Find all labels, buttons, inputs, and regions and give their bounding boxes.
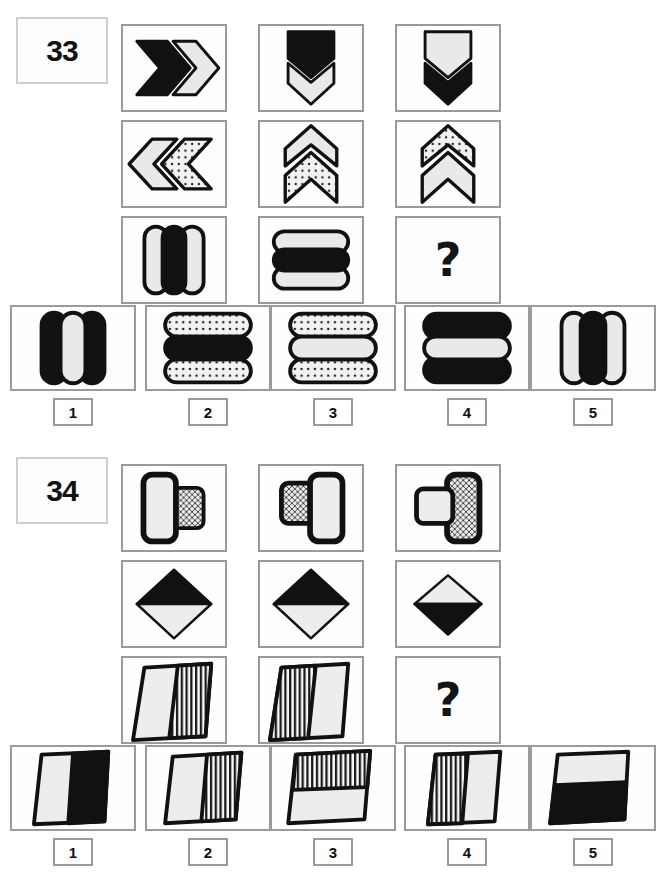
puzzle-number-plate: 34 — [16, 457, 108, 524]
answer-label-text: 1 — [69, 404, 77, 421]
matrix-cell-r3c3-missing[interactable]: ? — [395, 216, 501, 304]
matrix-cell-r3c1[interactable] — [121, 216, 227, 304]
matrix-cell-r1c1[interactable] — [121, 464, 227, 552]
answer-label-1[interactable]: 1 — [53, 398, 93, 426]
answer-label-text: 1 — [69, 844, 77, 861]
answer-option-5[interactable] — [530, 745, 656, 831]
matrix-cell-r2c2[interactable] — [258, 120, 364, 208]
answer-label-4[interactable]: 4 — [447, 398, 487, 426]
answer-option-1[interactable] — [10, 745, 136, 831]
matrix-cell-r1c3[interactable] — [395, 24, 501, 112]
question-mark: ? — [397, 218, 499, 302]
answer-option-4[interactable] — [404, 745, 530, 831]
answer-label-4[interactable]: 4 — [447, 838, 487, 866]
answer-label-text: 5 — [589, 844, 597, 861]
puzzle-number-plate: 33 — [16, 17, 108, 84]
answer-label-3[interactable]: 3 — [313, 838, 353, 866]
matrix-cell-r3c2[interactable] — [258, 656, 364, 744]
answer-label-3[interactable]: 3 — [313, 398, 353, 426]
answer-label-5[interactable]: 5 — [573, 838, 613, 866]
answer-label-text: 2 — [204, 844, 212, 861]
question-mark: ? — [397, 658, 499, 742]
answer-option-2[interactable] — [145, 305, 271, 391]
answer-label-text: 3 — [329, 844, 337, 861]
puzzle-33: 33 — [0, 0, 659, 430]
answer-options-34: 1 2 — [0, 745, 659, 865]
answer-label-2[interactable]: 2 — [188, 398, 228, 426]
answer-label-text: 4 — [463, 844, 471, 861]
answer-label-2[interactable]: 2 — [188, 838, 228, 866]
answer-option-2[interactable] — [145, 745, 271, 831]
matrix-cell-r2c3[interactable] — [395, 120, 501, 208]
answer-option-3[interactable] — [270, 745, 396, 831]
answer-label-text: 3 — [329, 404, 337, 421]
answer-option-3[interactable] — [270, 305, 396, 391]
answer-label-5[interactable]: 5 — [573, 398, 613, 426]
matrix-cell-r2c3[interactable] — [395, 560, 501, 648]
answer-label-text: 5 — [589, 404, 597, 421]
answer-label-text: 2 — [204, 404, 212, 421]
matrix-cell-r2c1[interactable] — [121, 120, 227, 208]
answer-label-1[interactable]: 1 — [53, 838, 93, 866]
matrix-cell-r2c1[interactable] — [121, 560, 227, 648]
matrix-cell-r2c2[interactable] — [258, 560, 364, 648]
matrix-cell-r3c2[interactable] — [258, 216, 364, 304]
puzzle-number: 34 — [46, 474, 77, 508]
matrix-cell-r1c1[interactable] — [121, 24, 227, 112]
matrix-cell-r3c3-missing[interactable]: ? — [395, 656, 501, 744]
puzzle-34: 34 — [0, 440, 659, 889]
matrix-cell-r1c2[interactable] — [258, 24, 364, 112]
answer-options-33: 1 2 — [0, 305, 659, 425]
answer-label-text: 4 — [463, 404, 471, 421]
answer-option-5[interactable] — [530, 305, 656, 391]
answer-option-1[interactable] — [10, 305, 136, 391]
matrix-cell-r3c1[interactable] — [121, 656, 227, 744]
matrix-cell-r1c3[interactable] — [395, 464, 501, 552]
matrix-cell-r1c2[interactable] — [258, 464, 364, 552]
answer-option-4[interactable] — [404, 305, 530, 391]
puzzle-number: 33 — [46, 34, 77, 68]
